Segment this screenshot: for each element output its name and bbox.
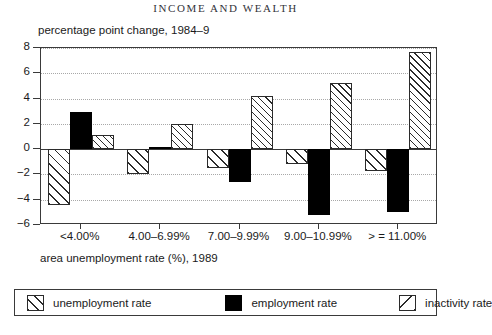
chart-figure: percentage point change, 1984–9 86420−2−… — [0, 24, 451, 280]
bar-unemployment-1 — [48, 149, 70, 205]
x-axis-tick-label: <4.00% — [40, 230, 119, 242]
legend-item-unemployment-rate: unemployment rate — [27, 290, 151, 315]
y-axis-tick — [33, 98, 40, 99]
bar-unemployment-2 — [127, 149, 149, 174]
legend-label-inactivity-rate: inactivity rate — [425, 297, 492, 309]
x-axis-title: area unemployment rate (%), 1989 — [40, 252, 218, 264]
bar-inactivity-5 — [409, 52, 431, 149]
bar-employment-5 — [387, 149, 409, 212]
gridline — [41, 73, 436, 74]
bar-employment-4 — [308, 149, 330, 215]
legend-label-employment-rate: employment rate — [251, 297, 337, 309]
legend-label-unemployment-rate: unemployment rate — [53, 297, 151, 309]
x-axis-tick — [239, 224, 240, 229]
gridline — [41, 48, 436, 49]
bar-unemployment-5 — [365, 149, 387, 170]
legend-item-employment-rate: employment rate — [225, 290, 337, 315]
x-axis-tick — [397, 224, 398, 229]
bar-employment-3 — [229, 149, 251, 182]
legend-item-inactivity-rate: inactivity rate — [399, 290, 492, 315]
y-axis-tick — [33, 173, 40, 174]
legend-swatch-inactivity-rate — [399, 295, 416, 311]
x-axis-tick-label: > = 11.00% — [358, 230, 437, 242]
y-axis-tick — [33, 47, 40, 48]
x-axis-tick-label: 7.00–9.99% — [199, 230, 278, 242]
bar-inactivity-4 — [330, 83, 352, 149]
bar-unemployment-3 — [207, 149, 229, 168]
y-axis-tick-label: 8 — [6, 41, 30, 53]
legend-swatch-employment-rate — [225, 295, 242, 311]
y-axis-tick-label: 6 — [6, 66, 30, 78]
plot-area — [40, 47, 437, 224]
y-axis-tick-label: 2 — [6, 117, 30, 129]
x-axis-tick-label: 9.00–10.99% — [278, 230, 357, 242]
y-axis-tick — [33, 72, 40, 73]
gridline — [41, 124, 436, 125]
x-axis-tick-label: 4.00–6.99% — [119, 230, 198, 242]
y-axis-title: percentage point change, 1984–9 — [38, 24, 209, 36]
y-axis-tick — [33, 224, 40, 225]
y-axis-tick-label: −6 — [6, 218, 30, 230]
bar-unemployment-4 — [286, 149, 308, 164]
y-axis-tick-label: 0 — [6, 142, 30, 154]
gridline — [41, 99, 436, 100]
x-axis-tick — [80, 224, 81, 229]
gridline — [41, 200, 436, 201]
bar-inactivity-3 — [251, 96, 273, 149]
legend-swatch-unemployment-rate — [27, 295, 44, 311]
chart-legend: unemployment rate employment rate inacti… — [14, 289, 437, 316]
y-axis-tick — [33, 148, 40, 149]
y-axis-tick-label: 4 — [6, 92, 30, 104]
bar-inactivity-1 — [92, 135, 114, 149]
bar-employment-1 — [70, 112, 92, 149]
y-axis-tick-label: −4 — [6, 193, 30, 205]
x-axis-tick — [159, 224, 160, 229]
x-axis-tick — [318, 224, 319, 229]
running-head: INCOME AND WEALTH — [0, 2, 451, 14]
y-axis-tick — [33, 199, 40, 200]
y-axis-tick-label: −2 — [6, 167, 30, 179]
bar-employment-2 — [149, 147, 171, 150]
y-axis-tick — [33, 123, 40, 124]
bar-inactivity-2 — [171, 124, 193, 149]
